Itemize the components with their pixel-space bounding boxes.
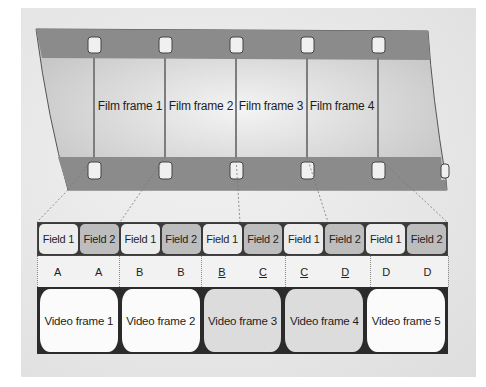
source-letter-underlined: C <box>242 256 283 287</box>
field-cell: Field 2 <box>162 224 201 254</box>
field-cell: Field 1 <box>284 224 323 254</box>
film-frame-label: Film frame 4 <box>310 99 374 113</box>
divider <box>119 256 120 287</box>
video-frame: Video frame 5 <box>367 289 445 352</box>
fields-row: Field 1 Field 2 Field 1 Field 2 Field 1 … <box>37 222 448 256</box>
field-cell: Field 2 <box>407 224 446 254</box>
divider <box>448 256 449 287</box>
source-letter: D <box>407 256 448 287</box>
film-frame-label: Film frame 2 <box>169 99 233 113</box>
source-letter: D <box>366 256 407 287</box>
video-frames-row: Video frame 1 Video frame 2 Video frame … <box>37 287 448 354</box>
source-letter-underlined: D <box>325 256 366 287</box>
field-cell: Field 1 <box>39 224 78 254</box>
field-cell: Field 2 <box>244 224 283 254</box>
divider <box>285 256 286 287</box>
film-frame-label: Film frame 3 <box>239 99 303 113</box>
film-frame-label: Film frame 1 <box>98 99 162 113</box>
video-frame: Video frame 2 <box>122 289 200 352</box>
source-letter: A <box>78 256 119 287</box>
source-letters-row: A A B B B C C D D D <box>37 256 448 287</box>
divider <box>37 256 38 287</box>
video-frame: Video frame 4 <box>285 289 363 352</box>
source-letter: A <box>37 256 78 287</box>
field-cell: Field 1 <box>121 224 160 254</box>
field-cell: Field 2 <box>80 224 119 254</box>
source-letter-underlined: B <box>201 256 242 287</box>
divider <box>370 256 371 287</box>
field-cell: Field 2 <box>325 224 364 254</box>
video-frame: Video frame 1 <box>40 289 118 352</box>
video-frame: Video frame 3 <box>204 289 282 352</box>
field-cell: Field 1 <box>366 224 405 254</box>
source-letter: B <box>119 256 160 287</box>
source-letter-underlined: C <box>284 256 325 287</box>
source-letter: B <box>160 256 201 287</box>
field-cell: Field 1 <box>203 224 242 254</box>
divider <box>201 256 202 287</box>
